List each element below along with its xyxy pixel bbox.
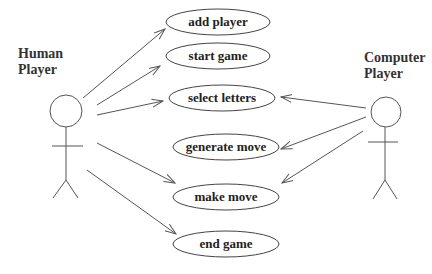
use-case-label: add player	[188, 14, 248, 29]
actor-label-human-line2: Player	[18, 62, 57, 77]
association-human-make-move	[97, 143, 175, 183]
association-human-start-game	[97, 66, 160, 105]
use-case-start-game: start game	[166, 43, 270, 69]
actor-label-computer-line1: Computer	[364, 50, 425, 65]
association-computer-make-move	[282, 131, 363, 183]
use-case-diagram: Human Player Computer Player add player …	[0, 0, 432, 274]
association-human-end-game	[87, 170, 176, 234]
use-case-label: start game	[189, 48, 248, 63]
association-computer-select-letters	[281, 97, 366, 108]
actor-label-computer-line2: Player	[364, 66, 403, 81]
association-computer-generate-move	[281, 117, 366, 149]
use-case-make-move: make move	[173, 184, 279, 210]
computer-player-actor-icon	[368, 97, 401, 199]
use-case-generate-move: generate move	[173, 134, 279, 160]
use-case-label: make move	[194, 189, 257, 204]
actor-label-human-line1: Human	[18, 46, 63, 61]
association-human-add-player	[83, 29, 165, 98]
association-human-select-letters	[97, 101, 163, 115]
use-case-select-letters: select letters	[169, 85, 275, 111]
use-case-add-player: add player	[166, 9, 270, 35]
use-case-label: generate move	[186, 139, 267, 154]
use-case-label: end game	[199, 236, 252, 251]
human-player-actor-icon	[50, 95, 83, 198]
use-case-end-game: end game	[173, 231, 279, 257]
use-case-label: select letters	[188, 90, 256, 105]
